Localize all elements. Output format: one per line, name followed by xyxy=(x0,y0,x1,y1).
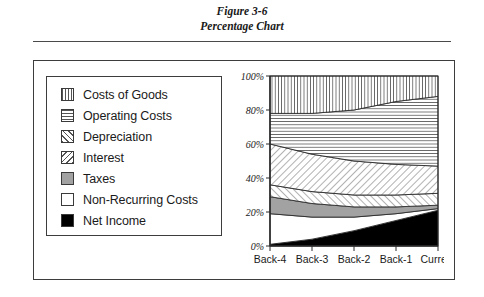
y-axis-tick-label: 100% xyxy=(241,71,264,82)
legend-item-non-recurring-costs: Non-Recurring Costs xyxy=(61,189,221,210)
x-axis-category-label: Current xyxy=(420,253,444,265)
x-axis-category-label: Back-3 xyxy=(296,253,329,265)
legend-item-costs-of-goods: Costs of Goods xyxy=(61,84,221,105)
back-diagonal-hatch-swatch-icon xyxy=(61,151,74,164)
forward-diagonal-hatch-swatch-icon xyxy=(61,130,74,143)
x-axis-category-label: Back-2 xyxy=(338,253,371,265)
figure-title: Percentage Chart xyxy=(0,19,484,34)
chart-legend: Costs of Goods Operating Costs Depreciat… xyxy=(46,76,222,236)
solid-black-swatch-icon xyxy=(61,214,74,227)
legend-item-label: Non-Recurring Costs xyxy=(83,193,198,207)
horizontal-hatch-swatch-icon xyxy=(61,109,74,122)
legend-item-label: Interest xyxy=(83,151,124,165)
figure-caption: Figure 3-6 Percentage Chart xyxy=(0,4,484,34)
solid-gray-swatch-icon xyxy=(61,172,74,185)
chart-frame: Costs of Goods Operating Costs Depreciat… xyxy=(33,60,455,280)
y-axis-tick-label: 80% xyxy=(246,105,264,116)
figure-number: Figure 3-6 xyxy=(0,4,484,19)
y-axis-tick-label: 20% xyxy=(246,207,264,218)
percentage-area-chart: 0%20%40%60%80%100%Back-4Back-3Back-2Back… xyxy=(230,70,444,275)
solid-white-swatch-icon xyxy=(61,193,74,206)
legend-item-label: Depreciation xyxy=(83,130,152,144)
legend-item-label: Taxes xyxy=(83,172,115,186)
plot-area: 0%20%40%60%80%100%Back-4Back-3Back-2Back… xyxy=(230,70,444,275)
legend-item-depreciation: Depreciation xyxy=(61,126,221,147)
vertical-hatch-swatch-icon xyxy=(61,88,74,101)
y-axis-tick-label: 60% xyxy=(246,139,264,150)
y-axis-tick-label: 0% xyxy=(251,241,264,252)
legend-item-net-income: Net Income xyxy=(61,210,221,231)
horizontal-rule xyxy=(33,41,451,42)
legend-item-interest: Interest xyxy=(61,147,221,168)
legend-item-label: Costs of Goods xyxy=(83,88,168,102)
legend-item-label: Operating Costs xyxy=(83,109,172,123)
legend-item-label: Net Income xyxy=(83,214,146,228)
legend-item-operating-costs: Operating Costs xyxy=(61,105,221,126)
legend-item-taxes: Taxes xyxy=(61,168,221,189)
x-axis-category-label: Back-1 xyxy=(380,253,413,265)
y-axis-tick-label: 40% xyxy=(246,173,264,184)
x-axis-category-label: Back-4 xyxy=(254,253,287,265)
